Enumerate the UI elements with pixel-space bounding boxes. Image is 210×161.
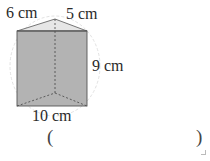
answer-close-paren: ) [196,127,202,146]
answer-open-paren: ( [47,127,53,146]
answer-blank[interactable] [60,127,195,147]
corner-mark [201,150,206,155]
label-5cm: 5 cm [66,6,98,22]
label-6cm: 6 cm [6,5,38,21]
label-10cm: 10 cm [32,108,72,124]
side-faces [17,31,87,106]
label-9cm: 9 cm [92,58,124,74]
